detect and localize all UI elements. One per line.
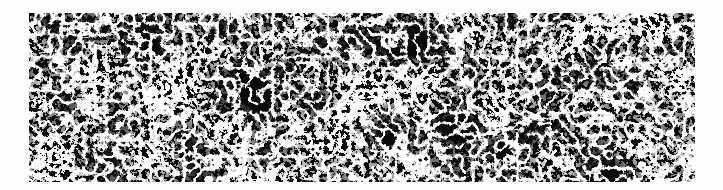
image-canvas (0, 0, 723, 190)
filament-texture (29, 13, 695, 182)
filament-texture-svg (29, 13, 695, 182)
